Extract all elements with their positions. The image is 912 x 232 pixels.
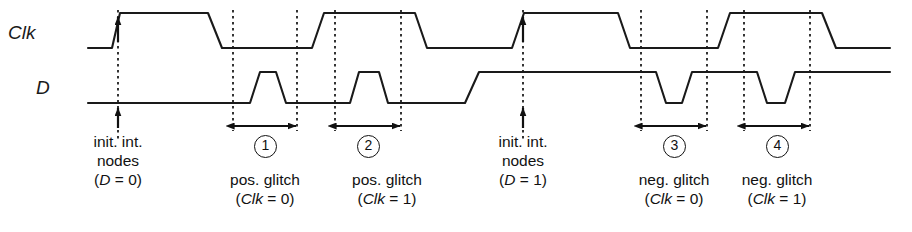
annotation-init-nodes-d0: init. int. nodes (D = 0) bbox=[58, 132, 178, 189]
glitch-2-line2: (Clk = 1) bbox=[322, 189, 452, 208]
glitch-badge-3: 3 bbox=[663, 135, 686, 158]
clk-waveform bbox=[88, 13, 890, 48]
d-waveform bbox=[88, 72, 890, 103]
init-nodes-1-line3: (D = 1) bbox=[463, 170, 583, 189]
glitch-3-var: Clk bbox=[650, 190, 672, 207]
init-nodes-1-line1: init. int. bbox=[463, 132, 583, 151]
init-nodes-value: 0 bbox=[128, 171, 137, 188]
glitch-4-line1: neg. glitch bbox=[712, 170, 842, 189]
glitch-1-line2: (Clk = 0) bbox=[200, 189, 330, 208]
glitch-1-eq: = 0) bbox=[263, 190, 294, 207]
glitch-badge-4: 4 bbox=[766, 135, 789, 158]
annotation-init-nodes-d1: init. int. nodes (D = 1) bbox=[463, 132, 583, 189]
dashed-guides bbox=[118, 10, 810, 140]
timing-diagram-figure: Clk D init. int. nodes (D = 0) init. int… bbox=[0, 0, 912, 232]
annotation-glitch-1: pos. glitch (Clk = 0) bbox=[200, 170, 330, 208]
init-nodes-1-eq: = bbox=[515, 171, 533, 188]
glitch-4-eq: = 1) bbox=[775, 190, 806, 207]
signal-label-d: D bbox=[36, 77, 50, 99]
init-nodes-var: D bbox=[99, 171, 110, 188]
glitch-1-var: Clk bbox=[241, 190, 263, 207]
annotation-glitch-4: neg. glitch (Clk = 1) bbox=[712, 170, 842, 208]
init-nodes-1-var: D bbox=[504, 171, 515, 188]
init-nodes-line3: (D = 0) bbox=[58, 170, 178, 189]
glitch-2-eq: = 1) bbox=[385, 190, 416, 207]
init-nodes-1-value: 1 bbox=[533, 171, 542, 188]
glitch-3-eq: = 0) bbox=[672, 190, 703, 207]
glitch-2-line1: pos. glitch bbox=[322, 170, 452, 189]
glitch-2-var: Clk bbox=[363, 190, 385, 207]
glitch-4-line2: (Clk = 1) bbox=[712, 189, 842, 208]
init-edge-arrows bbox=[118, 17, 523, 128]
init-nodes-line1: init. int. bbox=[58, 132, 178, 151]
init-nodes-line2: nodes bbox=[58, 151, 178, 170]
glitch-1-line1: pos. glitch bbox=[200, 170, 330, 189]
glitch-4-var: Clk bbox=[753, 190, 775, 207]
glitch-badge-1: 1 bbox=[254, 135, 277, 158]
init-nodes-eq: = bbox=[110, 171, 128, 188]
glitch-badge-2: 2 bbox=[357, 135, 380, 158]
signal-label-clk: Clk bbox=[8, 22, 35, 44]
annotation-glitch-2-text: pos. glitch (Clk = 1) bbox=[322, 170, 452, 208]
init-nodes-1-line2: nodes bbox=[463, 151, 583, 170]
